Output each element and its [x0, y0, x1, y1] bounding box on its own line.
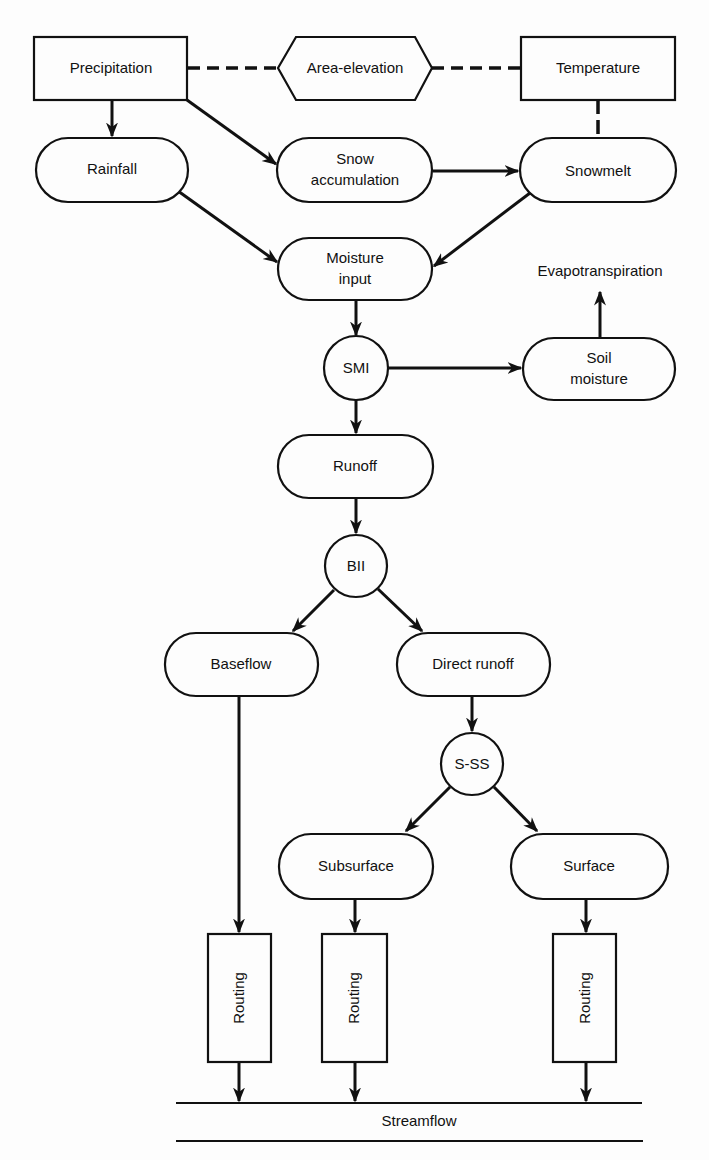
node-routing-3: Routing [553, 934, 616, 1062]
node-snowmelt: Snowmelt [520, 138, 676, 202]
node-routing-2: Routing [322, 934, 387, 1062]
snow-accumulation-label-1: Snow [336, 150, 374, 167]
snowmelt-label: Snowmelt [565, 162, 632, 179]
node-snow-accumulation: Snow accumulation [277, 138, 432, 202]
moisture-input-label-1: Moisture [326, 249, 384, 266]
routing-3-label: Routing [576, 972, 593, 1024]
node-temperature: Temperature [521, 37, 675, 100]
node-area-elevation: Area-elevation [278, 37, 432, 100]
node-smi: SMI [324, 336, 388, 400]
area-elevation-label: Area-elevation [307, 59, 404, 76]
arrow-sss-subsurface [406, 787, 450, 831]
temperature-label: Temperature [556, 59, 640, 76]
snow-accumulation-label-2: accumulation [311, 171, 399, 188]
routing-1-label: Routing [230, 972, 247, 1024]
node-precipitation: Precipitation [34, 37, 187, 100]
s-ss-label: S-SS [454, 755, 489, 772]
node-baseflow: Baseflow [165, 633, 318, 696]
node-routing-1: Routing [208, 934, 271, 1062]
subsurface-label: Subsurface [318, 857, 394, 874]
arrow-bii-direct [378, 589, 422, 631]
node-direct-runoff: Direct runoff [397, 633, 550, 696]
node-soil-moisture: Soil moisture [523, 338, 675, 400]
arrow-bii-baseflow [293, 590, 334, 631]
streamflow-label: Streamflow [381, 1112, 456, 1129]
node-evapotranspiration: Evapotranspiration [537, 262, 662, 279]
arrow-snowmelt-moisture [434, 193, 530, 266]
node-subsurface: Subsurface [279, 834, 433, 899]
rainfall-label: Rainfall [87, 160, 137, 177]
routing-2-label: Routing [345, 972, 362, 1024]
baseflow-label: Baseflow [211, 655, 272, 672]
node-rainfall: Rainfall [36, 138, 188, 202]
evapotranspiration-label: Evapotranspiration [537, 262, 662, 279]
smi-label: SMI [343, 359, 370, 376]
node-surface: Surface [511, 834, 668, 899]
node-runoff: Runoff [278, 435, 433, 498]
arrow-precip-snow [187, 100, 276, 164]
runoff-label: Runoff [333, 457, 378, 474]
precipitation-label: Precipitation [70, 59, 153, 76]
hydrologic-model-flowchart: Precipitation Area-elevation Temperature… [0, 0, 709, 1160]
bii-label: BII [347, 557, 365, 574]
node-bii: BII [325, 535, 387, 597]
arrow-rainfall-moisture [178, 191, 277, 262]
soil-moisture-label-1: Soil [586, 349, 611, 366]
moisture-input-label-2: input [339, 270, 372, 287]
node-streamflow: Streamflow [176, 1103, 643, 1141]
soil-moisture-label-2: moisture [570, 370, 628, 387]
node-s-ss: S-SS [441, 733, 503, 795]
surface-label: Surface [563, 857, 615, 874]
direct-runoff-label: Direct runoff [432, 655, 514, 672]
node-moisture-input: Moisture input [278, 238, 432, 300]
arrow-sss-surface [494, 787, 537, 831]
